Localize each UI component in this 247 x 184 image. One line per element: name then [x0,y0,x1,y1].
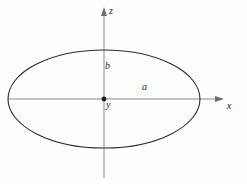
semi-minor-axis-label: b [105,61,110,71]
origin-y-axis-label: y [106,100,110,110]
semi-major-axis-label: a [142,82,147,92]
z-axis-label: z [109,6,113,16]
x-axis-arrow-icon [215,96,224,102]
x-axis-label: x [227,101,231,111]
ellipse-figure: z x b y a [0,0,247,184]
z-axis-arrow-icon [101,7,107,16]
figure-canvas [0,0,247,184]
